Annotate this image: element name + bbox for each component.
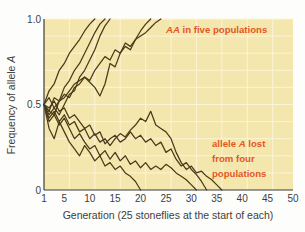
- x-tick-label: 40: [237, 193, 249, 204]
- x-tick-label: 35: [211, 193, 223, 204]
- x-tick-label: 20: [135, 193, 147, 204]
- annotation-fixed-populations-text: AA in five populations: [165, 24, 267, 35]
- x-tick-label: 10: [84, 193, 96, 204]
- x-tick-label: 50: [287, 193, 299, 204]
- allele-frequency-line-chart: 15101520253035404550 00.51.0 Generation …: [0, 0, 305, 232]
- x-tick-label: 5: [62, 193, 68, 204]
- annotation-lost-line-3: populations: [212, 168, 266, 179]
- y-axis-label-allele: A: [5, 56, 17, 64]
- x-axis-label: Generation (25 stoneflies at the start o…: [63, 209, 274, 221]
- y-axis-label: Frequency of allele A: [5, 56, 17, 155]
- x-tick-label: 45: [262, 193, 274, 204]
- y-tick-label: 0.5: [27, 99, 41, 110]
- x-tick-label: 15: [110, 193, 122, 204]
- annotation-fixed-rest: in five populations: [180, 24, 267, 35]
- y-axis-label-prefix: Frequency of allele: [5, 63, 17, 155]
- annotation-fixed-italic: AA: [165, 24, 180, 35]
- x-tick-label: 25: [160, 193, 172, 204]
- y-tick-label: 1.0: [27, 14, 41, 25]
- chart-figure: 15101520253035404550 00.51.0 Generation …: [0, 0, 305, 232]
- annotation-lost-line1-post: lost: [246, 138, 267, 149]
- annotation-lost-line-2: from four: [212, 153, 255, 164]
- annotation-lost-line1-allele: A: [238, 138, 246, 149]
- annotation-lost-line-1: allele A lost: [212, 138, 266, 149]
- annotation-lost-line1-pre: allele: [212, 138, 239, 149]
- annotation-fixed-populations: AA in five populations: [165, 24, 267, 35]
- x-tick-label: 1: [41, 193, 47, 204]
- y-tick-label: 0: [35, 185, 41, 196]
- x-tick-label: 30: [186, 193, 198, 204]
